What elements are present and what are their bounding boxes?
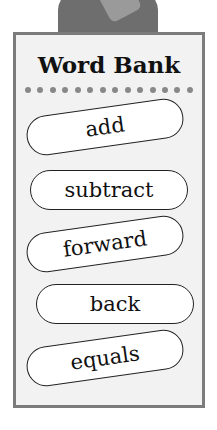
character-detail [92, 0, 143, 23]
divider-dot [150, 87, 156, 93]
dotted-divider [25, 87, 193, 93]
divider-dot [50, 87, 56, 93]
divider-dot [62, 87, 68, 93]
divider-dot [174, 87, 180, 93]
divider-dot [137, 87, 143, 93]
divider-dot [187, 87, 193, 93]
divider-dot [37, 87, 43, 93]
word-bank-panel: Word Bank add subtract forward back equa… [13, 32, 205, 408]
word-card-add: add [24, 96, 186, 158]
word-card-forward: forward [24, 213, 186, 275]
word-card-subtract: subtract [30, 170, 188, 210]
divider-dot [87, 87, 93, 93]
word-card-equals: equals [24, 327, 186, 389]
divider-dot [75, 87, 81, 93]
word-card-back: back [36, 284, 194, 324]
divider-dot [100, 87, 106, 93]
divider-dot [125, 87, 131, 93]
divider-dot [25, 87, 31, 93]
divider-dot [162, 87, 168, 93]
word-bank-title: Word Bank [16, 51, 202, 78]
divider-dot [112, 87, 118, 93]
